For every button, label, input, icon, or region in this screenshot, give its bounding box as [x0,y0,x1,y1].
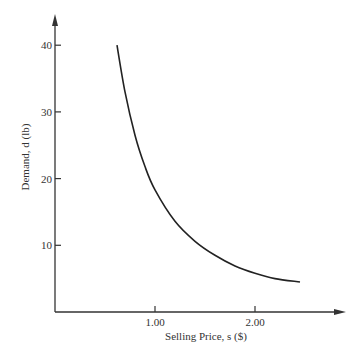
y-axis-label: Demand, d (lb) [19,123,32,190]
x-tick-label: 2.00 [245,316,265,328]
y-tick-label: 40 [41,39,53,51]
demand-curve [117,45,300,282]
x-tick-label: 1.00 [145,316,165,328]
x-axis-arrow-icon [334,309,346,315]
y-ticks: 10203040 [41,39,61,251]
y-tick-label: 20 [41,173,53,185]
x-ticks: 1.002.00 [145,306,265,328]
y-tick-label: 30 [41,106,53,118]
y-tick-label: 10 [41,239,53,251]
demand-chart: 10203040 1.002.00 Demand, d (lb) Selling… [0,0,358,355]
x-axis-label: Selling Price, s ($) [165,330,247,343]
y-axis-arrow-icon [52,14,58,26]
